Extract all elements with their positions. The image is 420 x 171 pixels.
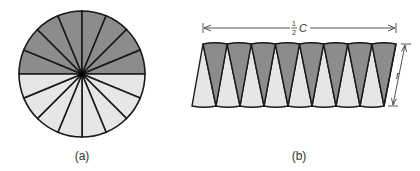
fraction-numerator: 1 bbox=[292, 20, 296, 27]
circle-center-dot bbox=[79, 71, 85, 77]
panel-b-rearranged-wedges bbox=[192, 43, 396, 108]
panel-a-circle-sectors bbox=[19, 11, 145, 137]
fraction-denominator: 2 bbox=[292, 29, 296, 36]
panel-b-caption: (b) bbox=[292, 149, 307, 163]
circumference-symbol: C bbox=[299, 22, 307, 34]
half-circumference-dimension: 1 2 C bbox=[203, 20, 396, 36]
panel-a-caption: (a) bbox=[75, 149, 90, 163]
circle-rearrangement-diagram: (a) 1 2 C r (b) bbox=[0, 0, 420, 171]
